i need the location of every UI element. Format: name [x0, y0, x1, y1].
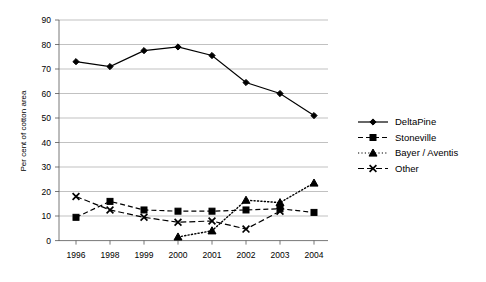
y-axis-tick-labels: 90 80 70 60 50 40 30 20 10 0 — [42, 15, 52, 246]
y-tick-label: 70 — [42, 64, 52, 74]
y-tick-label: 90 — [42, 15, 52, 25]
y-tick-marks — [55, 20, 59, 241]
y-tick-label: 20 — [42, 187, 52, 197]
x-tick-marks — [76, 241, 314, 245]
legend-label: Bayer / Aventis — [395, 147, 458, 158]
x-tick-label: 2004 — [305, 250, 324, 260]
data-point — [141, 48, 147, 54]
y-tick-label: 10 — [42, 211, 52, 221]
data-point — [277, 90, 283, 96]
gridlines — [59, 20, 328, 216]
legend-item-bayer-aventis[interactable]: Bayer / Aventis — [358, 147, 458, 158]
data-point — [141, 207, 147, 213]
data-point — [243, 207, 249, 213]
x-tick-label: 2003 — [271, 250, 290, 260]
line-chart: 90 80 70 60 50 40 30 20 10 0 Per cent of… — [0, 0, 486, 282]
series-deltapine — [73, 44, 317, 119]
legend-label: Other — [395, 163, 419, 174]
chart-legend: DeltaPineStonevilleBayer / AventisOther — [358, 116, 458, 174]
legend-label: Stoneville — [395, 132, 436, 143]
x-tick-label: 2000 — [169, 250, 188, 260]
diamond-marker-icon — [370, 119, 376, 125]
legend-item-deltapine[interactable]: DeltaPine — [358, 116, 436, 127]
data-point — [311, 209, 317, 215]
data-point — [73, 59, 79, 65]
x-tick-label: 1998 — [101, 250, 120, 260]
data-point — [73, 193, 80, 200]
data-point — [175, 208, 181, 214]
chart-canvas: 90 80 70 60 50 40 30 20 10 0 Per cent of… — [0, 0, 486, 282]
series-line — [76, 47, 314, 116]
legend-label: DeltaPine — [395, 116, 436, 127]
y-tick-label: 30 — [42, 162, 52, 172]
series-layer — [73, 44, 318, 240]
data-point — [310, 179, 318, 186]
x-tick-label: 2002 — [237, 250, 256, 260]
y-tick-label: 50 — [42, 113, 52, 123]
legend-item-stoneville[interactable]: Stoneville — [358, 132, 436, 143]
x-tick-label: 1999 — [135, 250, 154, 260]
y-axis-title: Per cent of cotton area — [19, 90, 28, 171]
data-point — [73, 214, 79, 220]
y-tick-label: 0 — [46, 236, 51, 246]
x-tick-label: 2001 — [203, 250, 222, 260]
data-point — [107, 198, 113, 204]
square-marker-icon — [370, 135, 376, 141]
y-tick-label: 60 — [42, 89, 52, 99]
legend-item-other[interactable]: Other — [358, 163, 419, 174]
x-axis-tick-labels: 1996 1998 1999 2000 2001 2002 2003 2004 — [67, 250, 324, 260]
y-tick-label: 80 — [42, 40, 52, 50]
y-tick-label: 40 — [42, 138, 52, 148]
data-point — [209, 208, 215, 214]
x-tick-label: 1996 — [67, 250, 86, 260]
